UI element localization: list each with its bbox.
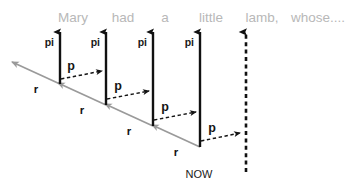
timestep-axes-group [60, 32, 246, 172]
recall-arrow [105, 104, 153, 126]
sentence-word: lamb, [245, 10, 278, 25]
recall-label: r [127, 125, 132, 137]
prediction-input-label: pi [91, 36, 100, 48]
prediction-label: p [67, 59, 75, 73]
prediction-label: p [114, 79, 122, 93]
prediction-input-label: pi [138, 36, 147, 48]
recall-label: r [34, 83, 39, 95]
prediction-recall-timeline-diagram: Maryhadalittlelamb,whose.... piprpiprpip… [0, 0, 364, 195]
prediction-label: p [208, 121, 216, 135]
sentence-word: Mary [58, 10, 88, 25]
recall-arrow [58, 83, 106, 105]
sentence-word: a [161, 10, 169, 25]
now-label: NOW [186, 168, 214, 180]
recall-label: r [80, 104, 85, 116]
prediction-input-label: pi [185, 36, 194, 48]
prediction-label: p [161, 100, 169, 114]
diagram-canvas: Maryhadalittlelamb,whose.... piprpiprpip… [0, 0, 364, 195]
sentence-word: little [199, 10, 223, 25]
recall-label: r [174, 146, 179, 158]
sentence-word: had [112, 10, 135, 25]
prediction-arrow [201, 133, 240, 141]
sentence-word: whose.... [290, 10, 345, 25]
prediction-input-label: pi [45, 36, 54, 48]
recall-arrow [152, 125, 200, 147]
recall-arrow [12, 62, 60, 84]
sentence-text-row: Maryhadalittlelamb,whose.... [58, 10, 345, 25]
